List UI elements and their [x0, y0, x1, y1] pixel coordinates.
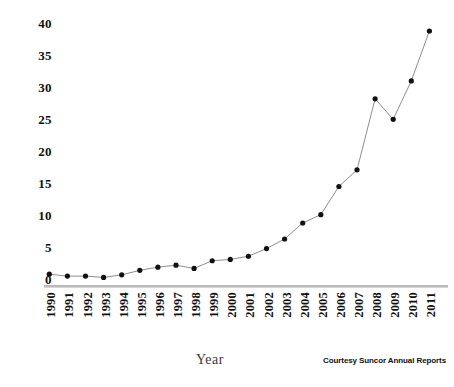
y-tick-label: 20 — [18, 145, 52, 158]
x-axis: 1990199119921993199419951996199719981999… — [0, 292, 454, 348]
series-line — [49, 31, 429, 277]
x-axis-line — [44, 285, 448, 288]
x-tick-label: 2010 — [406, 292, 421, 318]
x-tick-label: 1992 — [81, 292, 96, 318]
data-point-marker — [300, 220, 305, 225]
data-point-marker — [173, 263, 178, 268]
x-tick-label: 1990 — [44, 292, 59, 318]
x-tick-label: 2007 — [352, 292, 367, 318]
data-point-marker — [192, 266, 197, 271]
x-tick-label: 1995 — [135, 292, 150, 318]
x-tick-label: 2002 — [262, 292, 277, 318]
y-tick-label: 5 — [18, 241, 52, 254]
y-tick-label: 35 — [18, 49, 52, 62]
data-point-marker — [210, 258, 215, 263]
x-tick-label: 2011 — [424, 292, 439, 317]
plot-area — [56, 8, 446, 289]
data-point-marker — [155, 265, 160, 270]
data-point-marker — [336, 184, 341, 189]
x-tick-label: 2004 — [298, 292, 313, 318]
x-tick-label: 2006 — [334, 292, 349, 318]
data-point-marker — [47, 272, 52, 277]
data-point-marker — [318, 212, 323, 217]
data-point-marker — [228, 257, 233, 262]
x-tick-label: 2003 — [280, 292, 295, 318]
x-tick-label: 1994 — [117, 292, 132, 318]
data-point-marker — [264, 246, 269, 251]
x-tick-label: 2000 — [225, 292, 240, 318]
y-tick-label: 25 — [18, 113, 52, 126]
y-tick-label: 15 — [18, 177, 52, 190]
data-point-marker — [83, 274, 88, 279]
y-tick-label: 10 — [18, 209, 52, 222]
x-tick-label: 2001 — [243, 292, 258, 318]
x-tick-label: 1996 — [153, 292, 168, 318]
x-tick-label: 1997 — [171, 292, 186, 318]
data-point-marker — [282, 236, 287, 241]
data-point-marker — [246, 254, 251, 259]
data-point-marker — [65, 274, 70, 279]
y-tick-label: 30 — [18, 81, 52, 94]
x-tick-label: 2005 — [316, 292, 331, 318]
data-point-marker — [119, 272, 124, 277]
x-tick-label: 1998 — [189, 292, 204, 318]
data-point-marker — [354, 167, 359, 172]
credit-note: Courtesy Suncor Annual Reports — [323, 356, 446, 365]
y-tick-label: 40 — [18, 17, 52, 30]
data-point-marker — [391, 117, 396, 122]
data-point-marker — [373, 96, 378, 101]
series-line-and-markers — [56, 8, 446, 289]
x-tick-label: 2008 — [370, 292, 385, 318]
x-tick-label: 1993 — [99, 292, 114, 318]
x-tick-label: 2009 — [388, 292, 403, 318]
x-tick-label: 1991 — [62, 292, 77, 318]
data-point-marker — [409, 78, 414, 83]
line-chart: 0510152025303540 19901991199219931994199… — [0, 0, 454, 387]
data-point-marker — [137, 268, 142, 273]
x-tick-label: 1999 — [207, 292, 222, 318]
data-point-marker — [101, 275, 106, 280]
data-point-marker — [427, 28, 432, 33]
